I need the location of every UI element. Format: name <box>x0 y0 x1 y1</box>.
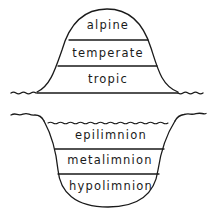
zone-label-hypolimnion: hypolimnion <box>69 180 153 192</box>
shore-left <box>11 114 44 121</box>
water-surface <box>48 122 168 124</box>
zone-label-temperate: temperate <box>72 47 143 59</box>
zone-label-alpine: alpine <box>87 19 129 31</box>
ground-wave-left <box>11 92 36 94</box>
zone-label-metalimnion: metalimnion <box>67 154 152 166</box>
ground-wave-right <box>178 92 203 94</box>
zone-label-tropic: tropic <box>88 73 128 85</box>
shore-right <box>175 113 206 121</box>
zone-label-epilimnion: epilimnion <box>75 129 147 141</box>
